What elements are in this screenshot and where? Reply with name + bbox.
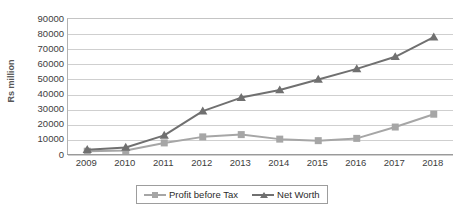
data-point-marker-square xyxy=(238,131,245,138)
legend-marker-triangle-icon xyxy=(252,190,274,200)
y-axis-tick-label: 80000 xyxy=(20,29,64,38)
x-axis-line xyxy=(67,154,453,155)
data-point-marker-triangle xyxy=(429,33,438,41)
data-point-marker-square xyxy=(199,133,206,140)
x-axis-tick-label: 2018 xyxy=(410,157,456,168)
data-point-marker-square xyxy=(353,135,360,142)
legend-marker-square-icon xyxy=(144,190,166,200)
series-line xyxy=(87,114,434,151)
y-axis-tick-label: 20000 xyxy=(20,119,64,128)
y-axis-tick-label: 10000 xyxy=(20,134,64,143)
legend-item[interactable]: Net Worth xyxy=(252,189,320,200)
data-point-marker-triangle xyxy=(160,131,169,139)
y-axis-tick-label: 50000 xyxy=(20,74,64,83)
data-point-marker-square xyxy=(315,137,322,144)
y-axis-tick-label: 70000 xyxy=(20,44,64,53)
plot-area xyxy=(67,18,453,155)
gridline xyxy=(68,155,453,156)
y-axis-tick-label: 30000 xyxy=(20,104,64,113)
chart-legend: Profit before TaxNet Worth xyxy=(136,185,328,204)
y-axis-tick-label: 40000 xyxy=(20,89,64,98)
legend-item-label: Net Worth xyxy=(277,189,320,200)
x-axis-tick-labels: 2009201020112012201320142015201620172018 xyxy=(67,157,453,173)
line-chart: Rs million 90000800007000060000500004000… xyxy=(0,0,463,213)
data-point-marker-square xyxy=(276,136,283,143)
legend-item-label: Profit before Tax xyxy=(169,189,238,200)
series-line xyxy=(87,37,434,150)
y-axis-tick-labels: 9000080000700006000050000400003000020000… xyxy=(20,14,64,154)
data-point-marker-square xyxy=(430,111,437,118)
data-point-marker-square xyxy=(161,139,168,146)
y-axis-tick-label: 0 xyxy=(20,150,64,159)
y-axis-tick-label: 90000 xyxy=(20,14,64,23)
legend-item[interactable]: Profit before Tax xyxy=(144,189,238,200)
plot-series-svg xyxy=(68,19,453,155)
y-axis-title: Rs million xyxy=(6,51,16,111)
y-axis-tick-label: 60000 xyxy=(20,59,64,68)
data-point-marker-square xyxy=(392,124,399,131)
